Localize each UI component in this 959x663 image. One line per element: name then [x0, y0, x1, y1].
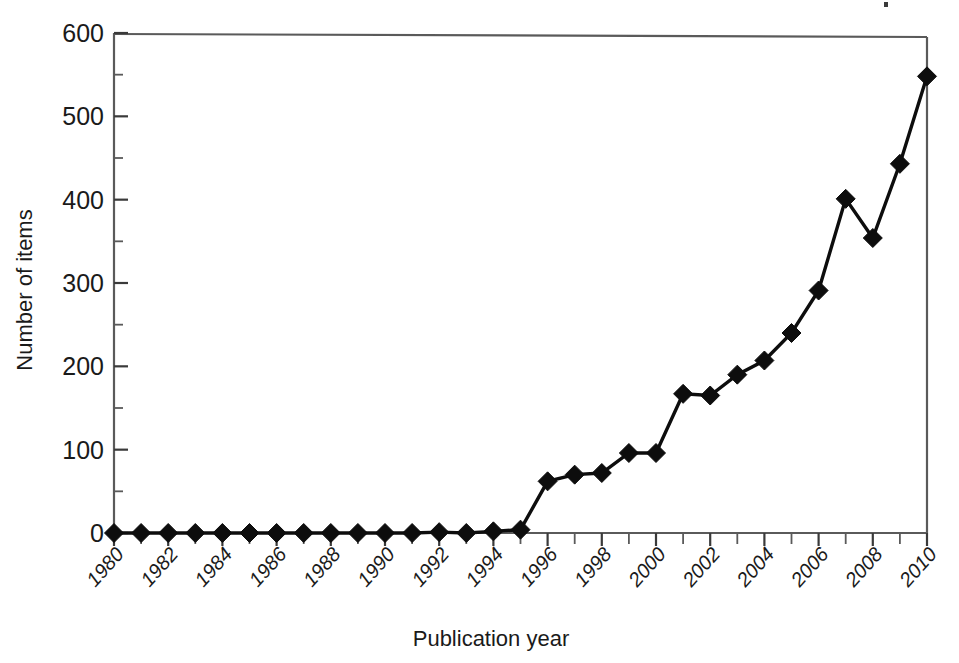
y-tick-label: 500 [62, 102, 104, 130]
y-tick-label: 300 [62, 269, 104, 297]
y-tick-label: 100 [62, 436, 104, 464]
scan-artifact [884, 2, 888, 7]
chart-figure: 0100200300400500600 19801982198419861988… [0, 0, 959, 663]
y-tick-label: 200 [62, 352, 104, 380]
x-axis-title: Publication year [413, 626, 570, 651]
y-tick-label: 600 [62, 19, 104, 47]
y-tick-label: 400 [62, 186, 104, 214]
y-tick-label: 0 [90, 519, 104, 547]
line-chart: 0100200300400500600 19801982198419861988… [0, 0, 959, 663]
y-axis-title: Number of items [12, 209, 37, 370]
